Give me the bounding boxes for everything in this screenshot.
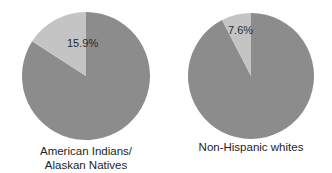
- data-label-american-indians: 15.9%: [67, 37, 98, 49]
- pie-charts: 15.9% American Indians/ Alaskan Natives …: [0, 0, 332, 173]
- caption-non-hispanic-whites: Non-Hispanic whites: [199, 141, 304, 153]
- data-label-non-hispanic-whites: 7.6%: [228, 24, 253, 36]
- pie-chart-american-indians: [22, 12, 150, 140]
- caption-line-2-american-indians: Alaskan Natives: [45, 159, 128, 171]
- caption-line-1-american-indians: American Indians/: [40, 145, 133, 157]
